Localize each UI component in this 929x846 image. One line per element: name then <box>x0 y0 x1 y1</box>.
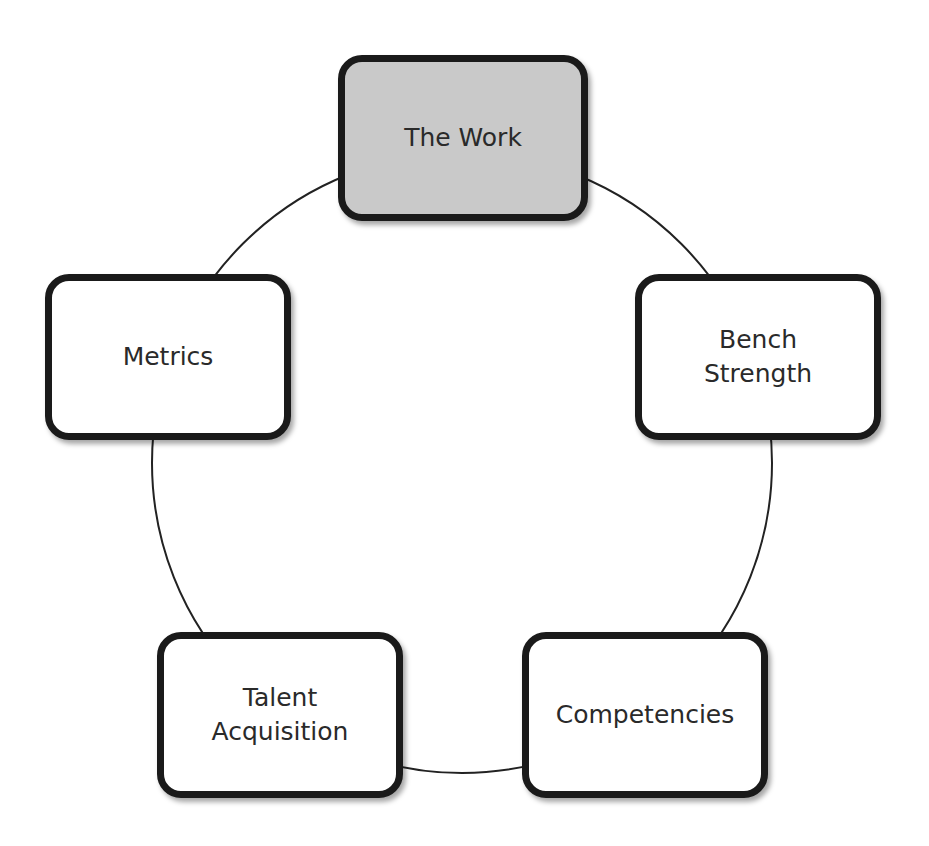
node-label: Bench Strength <box>704 323 812 391</box>
node-bench-strength: Bench Strength <box>635 274 881 440</box>
node-label: Competencies <box>556 698 734 732</box>
node-label: Talent Acquisition <box>212 681 349 749</box>
node-label: Metrics <box>123 340 214 374</box>
node-the-work: The Work <box>338 55 588 221</box>
node-talent-acquisition: Talent Acquisition <box>157 632 403 798</box>
node-label: The Work <box>404 121 522 155</box>
node-metrics: Metrics <box>45 274 291 440</box>
node-competencies: Competencies <box>522 632 768 798</box>
